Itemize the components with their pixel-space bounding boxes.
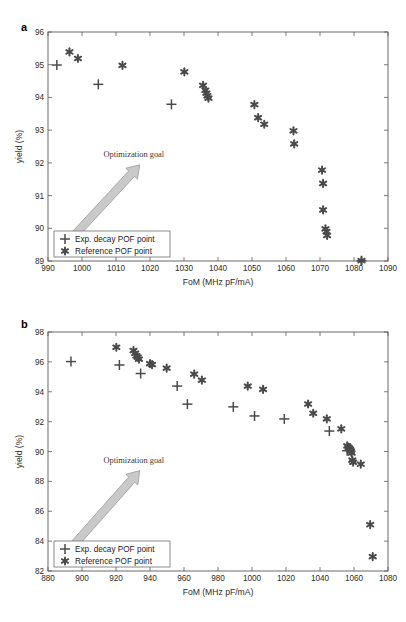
- plot-frame: [48, 32, 388, 261]
- legend-label: Exp. decay POF point: [75, 235, 155, 244]
- y-tick-label: 90: [35, 224, 45, 233]
- x-tick-label: 1070: [311, 264, 330, 273]
- x-axis-title: FoM (MHz pF/mA): [183, 587, 254, 597]
- y-tick-label: 84: [35, 537, 45, 546]
- y-tick-label: 90: [35, 448, 45, 457]
- y-axis-title: yield (%): [14, 130, 24, 164]
- y-tick-label: 92: [35, 418, 45, 427]
- x-tick-label: 1020: [277, 574, 296, 583]
- x-tick-label: 900: [75, 574, 89, 583]
- x-tick-label: 1060: [345, 574, 364, 583]
- y-tick-label: 92: [35, 159, 45, 168]
- x-tick-label: 1010: [107, 264, 126, 273]
- figure-container: a 99010001010102010301040105010601070108…: [0, 0, 406, 622]
- y-tick-label: 82: [35, 567, 45, 576]
- x-axis-title: FoM (MHz pF/mA): [183, 277, 254, 287]
- y-tick-label: 98: [35, 328, 45, 337]
- x-tick-label: 1060: [277, 264, 296, 273]
- y-tick-label: 96: [35, 28, 45, 37]
- legend-label: Reference POF point: [75, 247, 153, 256]
- panel-b-plot: 8809009209409609801000102010401060108082…: [0, 300, 406, 622]
- x-tick-label: 960: [177, 574, 191, 583]
- plot-frame: [48, 332, 388, 571]
- x-tick-label: 1080: [379, 574, 398, 583]
- x-tick-label: 1020: [141, 264, 160, 273]
- y-tick-label: 94: [35, 93, 45, 102]
- optimization-goal-label: Optimization goal: [103, 456, 164, 465]
- x-tick-label: 1040: [209, 264, 228, 273]
- x-tick-label: 980: [211, 574, 225, 583]
- x-tick-label: 920: [109, 574, 123, 583]
- x-tick-label: 1030: [175, 264, 194, 273]
- x-tick-label: 1000: [73, 264, 92, 273]
- y-tick-label: 95: [35, 61, 45, 70]
- x-tick-label: 1050: [243, 264, 262, 273]
- legend-label: Exp. decay POF point: [75, 545, 155, 554]
- panel-b: b 88090092094096098010001020104010601080…: [0, 300, 406, 622]
- legend-label: Reference POF point: [75, 557, 153, 566]
- y-tick-label: 96: [35, 358, 45, 367]
- x-tick-label: 940: [143, 574, 157, 583]
- caption-strip: [0, 610, 406, 622]
- optimization-goal-label: Optimization goal: [103, 150, 164, 159]
- y-tick-label: 86: [35, 507, 45, 516]
- y-tick-label: 93: [35, 126, 45, 135]
- y-axis-title: yield (%): [14, 435, 24, 469]
- y-tick-label: 91: [35, 192, 45, 201]
- panel-a: a 99010001010102010301040105010601070108…: [0, 0, 406, 300]
- y-tick-label: 88: [35, 477, 45, 486]
- y-tick-label: 89: [35, 257, 45, 266]
- x-tick-label: 1040: [311, 574, 330, 583]
- x-tick-label: 1090: [379, 264, 398, 273]
- y-tick-label: 94: [35, 388, 45, 397]
- panel-a-plot: 9901000101010201030104010501060107010801…: [0, 0, 406, 300]
- x-tick-label: 1000: [243, 574, 262, 583]
